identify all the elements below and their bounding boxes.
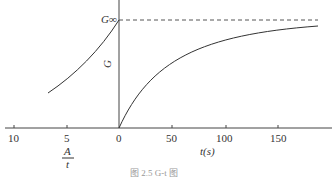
- tick-50: 50: [166, 132, 178, 144]
- tick-0: 0: [116, 132, 122, 144]
- left-curve: [48, 20, 119, 93]
- ginf-label: G∞: [101, 13, 117, 25]
- tick-100: 100: [216, 132, 233, 144]
- tick-150: 150: [270, 132, 287, 144]
- right-curve: [119, 26, 318, 128]
- tick-5: 5: [64, 132, 70, 144]
- tick-10: 10: [8, 132, 20, 144]
- caption: 图 2.5 G-t 图: [130, 168, 178, 177]
- x-label-t: t(s): [200, 145, 215, 158]
- g-label: G: [101, 60, 113, 68]
- x-label-t-denom: t: [66, 158, 70, 170]
- x-label-A: A: [63, 145, 71, 157]
- chart: G∞ G 10 5 0 50 100 150 t(s) A t 图 2.5 G-…: [0, 0, 332, 177]
